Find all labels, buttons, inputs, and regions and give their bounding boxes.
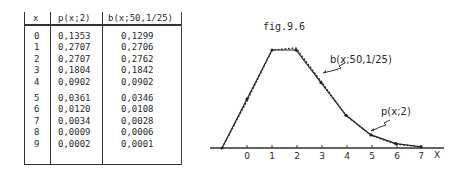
x-tick-label: 2 [292, 151, 302, 161]
x-tick-label: 3 [317, 151, 327, 161]
x-tick-label: 0 [242, 151, 252, 161]
distribution-plot [0, 0, 465, 174]
x-tick-label: 6 [392, 151, 402, 161]
x-axis-label: X [434, 150, 440, 160]
poisson-label: p(x;2) [381, 106, 411, 117]
x-tick-label: 4 [342, 151, 352, 161]
x-tick-label: 7 [416, 151, 426, 161]
x-tick-label: 5 [367, 151, 377, 161]
binomial-label: b(x;50,1/25) [330, 54, 392, 65]
x-tick-label: 1 [267, 151, 277, 161]
